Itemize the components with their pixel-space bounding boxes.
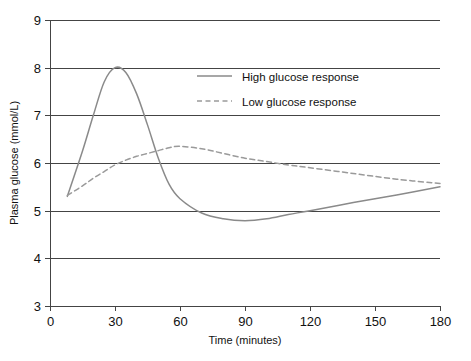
chart-container: 3456789 0306090120150180 Time (minutes) … [0,0,471,361]
y-tick-label-5: 5 [34,204,41,219]
x-tick-label-90: 90 [238,314,252,329]
line-chart: 3456789 0306090120150180 Time (minutes) … [0,0,471,361]
x-tick-label-30: 30 [108,314,122,329]
y-tick-label-6: 6 [34,156,41,171]
y-tick-label-7: 7 [34,108,41,123]
y-tick-label-3: 3 [34,299,41,314]
y-axis-title: Plasma glucose (mmol/L) [8,101,20,225]
x-tick-label-120: 120 [300,314,322,329]
x-tick-label-60: 60 [173,314,187,329]
y-tick-label-4: 4 [34,251,41,266]
y-tick-label-8: 8 [34,61,41,76]
legend-label-0: High glucose response [242,71,359,83]
legend-label-1: Low glucose response [242,96,356,108]
x-tick-label-150: 150 [365,314,387,329]
x-axis-title: Time (minutes) [209,334,282,346]
y-tick-label-9: 9 [34,13,41,28]
x-tick-label-180: 180 [430,314,452,329]
x-tick-label-0: 0 [47,314,54,329]
